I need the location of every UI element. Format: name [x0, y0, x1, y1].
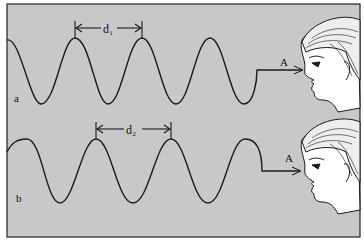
- point-label-b: A: [285, 152, 293, 164]
- diagram-canvas: d₁ a A d₂ b A: [0, 0, 364, 243]
- panel-label-b: b: [16, 192, 22, 204]
- label-d2: d₂: [126, 123, 136, 137]
- label-d1: d₁: [103, 22, 113, 36]
- wave-diagram: d₁ a A d₂ b A: [0, 0, 364, 243]
- point-label-a: A: [280, 56, 288, 68]
- panel-label-a: a: [14, 92, 19, 104]
